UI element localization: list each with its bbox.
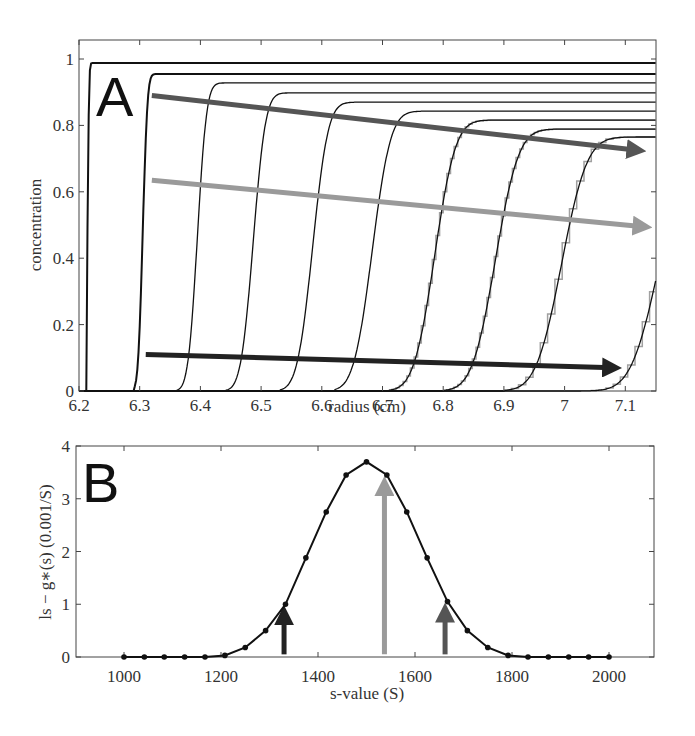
y-tick-label: 3 <box>62 490 71 509</box>
data-point <box>525 654 531 660</box>
trend-arrow <box>146 354 613 367</box>
panel-b-letter: B <box>82 451 119 514</box>
data-point <box>283 601 289 607</box>
y-tick-label: 2 <box>62 543 71 562</box>
data-point <box>222 653 228 659</box>
data-point <box>546 654 552 660</box>
x-tick-label: 6.5 <box>250 396 271 415</box>
y-tick-label: 1 <box>62 595 71 614</box>
step-trace <box>389 120 656 390</box>
y-tick-label: 0.2 <box>53 316 74 335</box>
data-point <box>445 599 451 605</box>
x-tick-label: 1000 <box>107 667 141 686</box>
data-point <box>485 645 491 651</box>
data-point <box>505 653 511 659</box>
data-point <box>465 628 471 634</box>
panel-b-distribution-line <box>121 459 612 660</box>
x-tick-label: 1200 <box>204 667 238 686</box>
data-point <box>121 654 127 660</box>
step-trace <box>577 292 656 391</box>
step-trace <box>504 137 656 390</box>
step-trace <box>443 129 656 390</box>
y-tick-label: 0.4 <box>53 249 75 268</box>
data-point <box>424 555 430 561</box>
panel-b-ylabel: ls − g∗(s) (0.001/S) <box>36 484 55 619</box>
panel-b-frame <box>76 446 654 657</box>
data-point <box>566 654 572 660</box>
figure: 6.26.36.46.56.66.76.86.977.100.20.40.60.… <box>0 0 695 736</box>
x-tick-label: 1800 <box>495 667 529 686</box>
trend-arrow <box>152 180 644 226</box>
x-tick-label: 6.8 <box>433 396 454 415</box>
x-tick-label: 7 <box>560 396 569 415</box>
y-tick-label: 0 <box>62 648 71 667</box>
distribution-line <box>124 462 609 657</box>
data-point <box>142 654 148 660</box>
data-point <box>404 509 410 515</box>
boundary-curve <box>79 102 656 391</box>
data-point <box>263 628 269 634</box>
boundary-curve <box>79 120 656 391</box>
y-tick-label: 4 <box>62 437 71 456</box>
x-tick-label: 7.1 <box>615 396 636 415</box>
panel-b-xlabel: s-value (S) <box>330 684 404 703</box>
panel-a-xlabel: radius (cm) <box>328 397 406 416</box>
data-point <box>161 654 167 660</box>
data-point <box>364 459 370 465</box>
data-point <box>606 654 612 660</box>
y-tick-label: 0 <box>66 382 75 401</box>
panel-b-distribution-plot: 10001200140016001800200001234 B s-value … <box>36 437 654 703</box>
boundary-curve <box>79 111 656 391</box>
panel-b-axis-ticks: 10001200140016001800200001234 <box>62 437 655 686</box>
y-tick-label: 0.8 <box>53 116 74 135</box>
data-point <box>182 654 188 660</box>
data-point <box>242 645 248 651</box>
panel-b-arrows <box>284 485 445 654</box>
panel-a-ylabel: concentration <box>26 178 45 271</box>
trend-arrow <box>152 96 638 151</box>
y-tick-label: 1 <box>66 50 75 69</box>
data-point <box>343 472 349 478</box>
data-point <box>303 555 309 561</box>
x-tick-label: 6.4 <box>190 396 212 415</box>
boundary-curve <box>79 281 656 391</box>
data-point <box>586 654 592 660</box>
panel-a-letter: A <box>96 65 134 128</box>
panel-a-step-traces <box>389 120 656 391</box>
data-point <box>323 509 329 515</box>
data-point <box>384 472 390 478</box>
panel-a-boundary-curves <box>79 63 656 391</box>
panel-a-concentration-plot: 6.26.36.46.56.66.76.86.977.100.20.40.60.… <box>26 40 656 416</box>
x-tick-label: 6.3 <box>129 396 150 415</box>
x-tick-label: 6.9 <box>493 396 514 415</box>
y-tick-label: 0.6 <box>53 183 74 202</box>
data-point <box>202 654 208 660</box>
x-tick-label: 2000 <box>592 667 626 686</box>
boundary-curve <box>79 129 656 391</box>
